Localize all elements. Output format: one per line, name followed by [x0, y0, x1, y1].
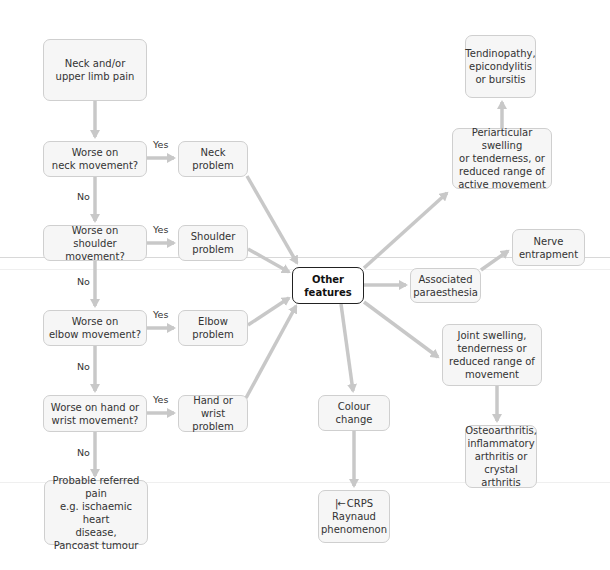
node-q-neck: Worse on neck movement?: [43, 141, 147, 177]
node-tendinopathy: Tendinopathy, epicondylitis or bursitis: [465, 35, 536, 98]
node-crps-rest-text: Raynaud phenomenon: [321, 510, 387, 536]
node-joint-swelling-text: Joint swelling, tenderness or reduced ra…: [449, 329, 535, 381]
node-neck-problem: Neck problem: [178, 141, 248, 177]
node-q-hand: Worse on hand or wrist movement?: [43, 395, 147, 432]
node-hand-problem: Hand or wrist problem: [178, 395, 248, 432]
node-periarticular: Periarticular swelling or tenderness, or…: [452, 128, 552, 189]
node-q-neck-text: Worse on neck movement?: [52, 146, 138, 172]
no-label-elbow: No: [77, 361, 90, 372]
node-crps: |←CRPS Raynaud phenomenon: [318, 490, 390, 543]
node-q-elbow: Worse on elbow movement?: [43, 310, 147, 346]
node-joint-swelling: Joint swelling, tenderness or reduced ra…: [442, 324, 542, 386]
node-referred-text: Probable referred pain e.g. ischaemic he…: [48, 474, 144, 552]
node-colour-change: Colour change: [318, 395, 390, 431]
no-label-shoulder: No: [77, 276, 90, 287]
node-arthritis: Osteoarthritis, inflammatory arthritis o…: [465, 425, 537, 488]
node-shoulder-problem-text: Shoulder problem: [191, 230, 236, 256]
node-tendinopathy-text: Tendinopathy, epicondylitis or bursitis: [465, 47, 535, 86]
node-elbow-problem: Elbow problem: [178, 310, 248, 346]
node-nerve: Nerve entrapment: [512, 229, 585, 266]
yes-label-shoulder: Yes: [153, 224, 168, 235]
node-q-shoulder: Worse on shoulder movement?: [43, 225, 147, 261]
no-label-neck: No: [77, 191, 90, 202]
arrow-left-icon: |←: [335, 498, 345, 509]
yes-label-hand: Yes: [153, 394, 168, 405]
node-crps-first-line: |←CRPS: [335, 497, 373, 510]
no-label-hand: No: [77, 447, 90, 458]
node-other-features-text: Other features: [304, 273, 351, 299]
node-referred: Probable referred pain e.g. ischaemic he…: [44, 480, 148, 545]
node-paraesthesia: Associated paraesthesia: [410, 268, 481, 303]
node-crps-first-text: CRPS: [347, 498, 373, 509]
node-q-shoulder-text: Worse on shoulder movement?: [47, 224, 143, 263]
yes-label-neck: Yes: [153, 139, 168, 150]
node-hand-problem-text: Hand or wrist problem: [182, 394, 244, 433]
node-paraesthesia-text: Associated paraesthesia: [413, 273, 478, 299]
node-periarticular-text: Periarticular swelling or tenderness, or…: [456, 126, 548, 191]
node-q-elbow-text: Worse on elbow movement?: [49, 315, 141, 341]
node-start: Neck and/or upper limb pain: [43, 39, 147, 101]
node-other-features: Other features: [292, 267, 364, 304]
yes-label-elbow: Yes: [153, 309, 168, 320]
node-shoulder-problem: Shoulder problem: [178, 225, 248, 261]
node-nerve-text: Nerve entrapment: [519, 235, 578, 261]
node-colour-change-text: Colour change: [322, 400, 386, 426]
node-elbow-problem-text: Elbow problem: [192, 315, 233, 341]
node-neck-problem-text: Neck problem: [192, 146, 233, 172]
node-q-hand-text: Worse on hand or wrist movement?: [51, 401, 139, 427]
node-start-text: Neck and/or upper limb pain: [56, 57, 135, 83]
node-arthritis-text: Osteoarthritis, inflammatory arthritis o…: [465, 424, 537, 489]
